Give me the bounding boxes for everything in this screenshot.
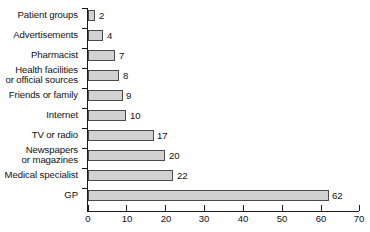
- x-axis-tick: [282, 205, 283, 211]
- bar-friends-or-family: [88, 90, 123, 101]
- x-axis-tick: [88, 205, 89, 211]
- bar-gp: [88, 190, 329, 201]
- y-axis-tick: [82, 68, 88, 69]
- bar-patient-groups: [88, 10, 96, 21]
- x-axis-tick: [243, 205, 244, 211]
- x-axis-tick-label-10: 10: [122, 213, 133, 224]
- category-label-friends-or-family: Friends or family: [9, 90, 78, 101]
- category-label-gp: GP: [64, 190, 78, 201]
- category-label-medical-specialist: Medical specialist: [5, 170, 78, 181]
- x-axis-tick: [204, 205, 205, 211]
- y-axis-tick: [82, 88, 88, 89]
- y-axis-tick: [82, 128, 88, 129]
- y-axis-tick: [82, 188, 88, 189]
- bar-value-medical-specialist: 22: [177, 170, 188, 181]
- horizontal-bar-chart: Patient groups Advertisements Pharmacist…: [0, 0, 370, 232]
- bar-value-patient-groups: 2: [99, 10, 104, 21]
- y-axis-tick: [82, 8, 88, 9]
- bar-value-tv-or-radio: 17: [157, 130, 168, 141]
- x-axis-tick: [321, 205, 322, 211]
- bar-pharmacist: [88, 50, 115, 61]
- bar-value-gp: 62: [332, 190, 343, 201]
- y-axis-tick: [82, 108, 88, 109]
- bar-medical-specialist: [88, 170, 174, 181]
- category-label-internet: Internet: [46, 110, 78, 121]
- bar-value-friends-or-family: 9: [126, 90, 131, 101]
- bar-newspapers: [88, 150, 166, 161]
- category-label-patient-groups: Patient groups: [18, 10, 78, 21]
- bar-value-internet: 10: [130, 110, 141, 121]
- x-axis-tick-label-20: 20: [161, 213, 172, 224]
- bar-health-facilities: [88, 70, 119, 81]
- y-axis-tick: [82, 148, 88, 149]
- bar-advertisements: [88, 30, 104, 41]
- category-label-health-facilities: Health facilities or official sources: [5, 65, 78, 86]
- y-axis-tick: [82, 48, 88, 49]
- bar-value-advertisements: 4: [107, 30, 112, 41]
- x-axis-line: [87, 211, 359, 212]
- bar-internet: [88, 110, 127, 121]
- x-axis-tick-label-60: 60: [316, 213, 327, 224]
- x-axis-tick: [126, 205, 127, 211]
- bar-tv-or-radio: [88, 130, 154, 141]
- x-axis-tick-label-40: 40: [238, 213, 249, 224]
- x-axis-tick-label-0: 0: [85, 213, 90, 224]
- x-axis-tick-label-30: 30: [199, 213, 210, 224]
- y-axis-tick: [82, 28, 88, 29]
- category-label-advertisements: Advertisements: [13, 30, 78, 41]
- bar-value-pharmacist: 7: [119, 50, 124, 61]
- x-axis-tick-label-50: 50: [277, 213, 288, 224]
- bar-value-health-facilities: 8: [123, 70, 128, 81]
- x-axis-tick: [359, 205, 360, 211]
- bar-value-newspapers: 20: [169, 150, 180, 161]
- x-axis-tick: [165, 205, 166, 211]
- x-axis-tick-label-70: 70: [354, 213, 365, 224]
- y-axis-tick: [82, 168, 88, 169]
- category-label-pharmacist: Pharmacist: [31, 50, 78, 61]
- category-label-tv-or-radio: TV or radio: [32, 130, 78, 141]
- category-label-newspapers: Newspapers or magazines: [22, 145, 78, 166]
